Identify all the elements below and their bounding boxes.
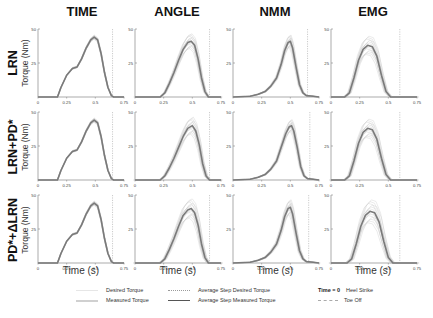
individual-step-trace bbox=[38, 122, 124, 180]
legend-item-toe-off: Toe Off bbox=[318, 297, 362, 303]
x-axis-label-angle: Time (s) bbox=[133, 265, 223, 276]
x-tick-label: 0 bbox=[37, 183, 40, 188]
individual-step-trace bbox=[38, 203, 124, 263]
x-tick-label: 0.75 bbox=[413, 183, 422, 188]
x-tick-label: 0.5 bbox=[287, 100, 293, 105]
x-axis-label-time: Time (s) bbox=[36, 265, 126, 276]
individual-step-trace bbox=[38, 119, 124, 180]
individual-step-trace bbox=[232, 121, 318, 180]
panel-lrnpd-emg: 255000.250.50.75 bbox=[324, 110, 421, 189]
x-tick-label: 0.5 bbox=[385, 183, 391, 188]
individual-step-trace bbox=[234, 45, 320, 97]
panel-pdlrn-time: 255000.250.50.75 bbox=[31, 193, 128, 272]
legend-text: Average Step Measured Torque bbox=[198, 297, 275, 303]
legend-text: Toe Off bbox=[344, 297, 362, 303]
x-tick-label: 0 bbox=[232, 100, 235, 105]
individual-step-trace bbox=[38, 35, 124, 97]
individual-step-trace bbox=[331, 214, 417, 263]
individual-step-trace bbox=[38, 205, 124, 263]
panel-lrn-emg: 255000.250.50.75 bbox=[324, 27, 421, 106]
individual-step-trace bbox=[38, 37, 124, 97]
individual-step-trace bbox=[233, 127, 319, 180]
individual-step-trace bbox=[38, 118, 124, 180]
individual-step-trace bbox=[233, 36, 319, 97]
y-tick-label: 50 bbox=[31, 27, 36, 32]
individual-step-trace bbox=[233, 212, 319, 263]
individual-step-trace bbox=[38, 118, 124, 180]
average-measured-torque-line bbox=[233, 126, 319, 180]
individual-step-trace bbox=[329, 138, 415, 180]
individual-step-trace bbox=[234, 126, 320, 180]
average-measured-torque-line bbox=[38, 203, 124, 263]
legend-item-avg-measured: Average Step Measured Torque bbox=[168, 297, 275, 303]
individual-step-trace bbox=[38, 39, 124, 97]
individual-step-trace bbox=[232, 207, 318, 263]
legend-item-desired: Desired Torque bbox=[76, 287, 143, 293]
legend-item-avg-desired: Average Step Desired Torque bbox=[168, 287, 270, 293]
individual-step-trace bbox=[38, 202, 124, 263]
individual-step-trace bbox=[232, 210, 318, 263]
legend-text: Heel Strike bbox=[346, 287, 373, 293]
individual-step-trace bbox=[233, 46, 319, 97]
y-tick-label: 50 bbox=[324, 193, 329, 198]
legend-swatch-toe-off bbox=[318, 300, 338, 301]
individual-step-trace bbox=[233, 201, 319, 263]
individual-step-trace bbox=[233, 204, 319, 263]
y-tick-label: 50 bbox=[128, 193, 133, 198]
x-tick-label: 0.25 bbox=[258, 100, 267, 105]
y-tick-label: 50 bbox=[226, 193, 231, 198]
panel-lrn-angle: 255000.250.50.75 bbox=[128, 27, 225, 106]
x-tick-label: 0.75 bbox=[315, 183, 324, 188]
x-tick-label: 0.25 bbox=[356, 183, 365, 188]
legend-item-heel-strike: Time = 0Heel Strike bbox=[318, 287, 373, 293]
individual-step-trace bbox=[329, 55, 415, 97]
individual-step-trace bbox=[38, 122, 124, 180]
y-tick-label: 50 bbox=[31, 110, 36, 115]
individual-step-trace bbox=[38, 120, 124, 180]
average-measured-torque-line bbox=[233, 207, 319, 263]
panel-lrn-time: 255000.250.50.75 bbox=[31, 27, 128, 106]
individual-step-trace bbox=[38, 122, 124, 180]
individual-step-trace bbox=[38, 37, 124, 97]
individual-step-trace bbox=[329, 223, 415, 263]
individual-step-trace bbox=[38, 202, 124, 263]
individual-step-trace bbox=[234, 208, 320, 263]
panel-lrnpd-angle: 255000.250.50.75 bbox=[128, 110, 225, 189]
individual-step-trace bbox=[233, 214, 319, 263]
x-tick-label: 0.75 bbox=[217, 183, 226, 188]
y-tick-label: 25 bbox=[226, 227, 231, 232]
y-tick-label: 50 bbox=[226, 27, 231, 32]
individual-step-trace bbox=[233, 40, 319, 97]
x-tick-label: 0.5 bbox=[189, 100, 195, 105]
x-tick-label: 0.5 bbox=[92, 183, 98, 188]
x-tick-label: 0 bbox=[134, 100, 137, 105]
average-measured-torque-line bbox=[38, 37, 124, 97]
individual-step-trace bbox=[233, 123, 319, 180]
individual-step-trace bbox=[38, 120, 124, 180]
individual-step-trace bbox=[234, 38, 320, 97]
individual-step-trace bbox=[38, 119, 124, 180]
y-tick-label: 25 bbox=[31, 227, 36, 232]
legend-swatch-avg-desired bbox=[168, 290, 190, 291]
y-tick-label: 25 bbox=[128, 144, 133, 149]
individual-step-trace bbox=[134, 49, 220, 97]
individual-step-trace bbox=[38, 36, 124, 97]
individual-step-trace bbox=[330, 216, 416, 263]
individual-step-trace bbox=[136, 42, 222, 97]
individual-step-trace bbox=[233, 120, 319, 180]
average-measured-torque-line bbox=[38, 120, 124, 180]
x-axis-label-emg: Time (s) bbox=[328, 265, 418, 276]
x-tick-label: 0.5 bbox=[189, 183, 195, 188]
individual-step-trace bbox=[234, 120, 320, 180]
x-tick-label: 0.25 bbox=[160, 183, 169, 188]
y-tick-label: 25 bbox=[324, 144, 329, 149]
legend-text: Average Step Desired Torque bbox=[198, 287, 270, 293]
individual-step-trace bbox=[329, 210, 415, 263]
panel-lrnpd-time: 255000.250.50.75 bbox=[31, 110, 128, 189]
individual-step-trace bbox=[38, 121, 124, 180]
x-tick-label: 0 bbox=[232, 183, 235, 188]
y-tick-label: 50 bbox=[226, 110, 231, 115]
individual-step-trace bbox=[234, 35, 320, 97]
x-axis-label-nmm: Time (s) bbox=[230, 265, 320, 276]
individual-step-trace bbox=[332, 52, 418, 97]
